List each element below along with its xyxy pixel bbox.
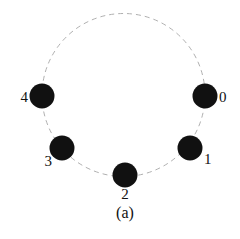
graph-node-2[interactable]	[113, 163, 138, 188]
node-label-0: 0	[219, 90, 227, 105]
graph-node-3[interactable]	[50, 136, 75, 161]
node-label-4: 4	[21, 90, 29, 105]
graph-node-4[interactable]	[30, 84, 55, 109]
graph-node-0[interactable]	[193, 84, 218, 109]
node-group	[30, 84, 218, 188]
node-label-1: 1	[204, 152, 212, 167]
node-label-3: 3	[45, 154, 53, 169]
graph-node-1[interactable]	[178, 136, 203, 161]
figure-panel-a: 01234 (a)	[0, 0, 240, 239]
node-label-2: 2	[121, 187, 129, 202]
figure-caption: (a)	[116, 205, 134, 221]
